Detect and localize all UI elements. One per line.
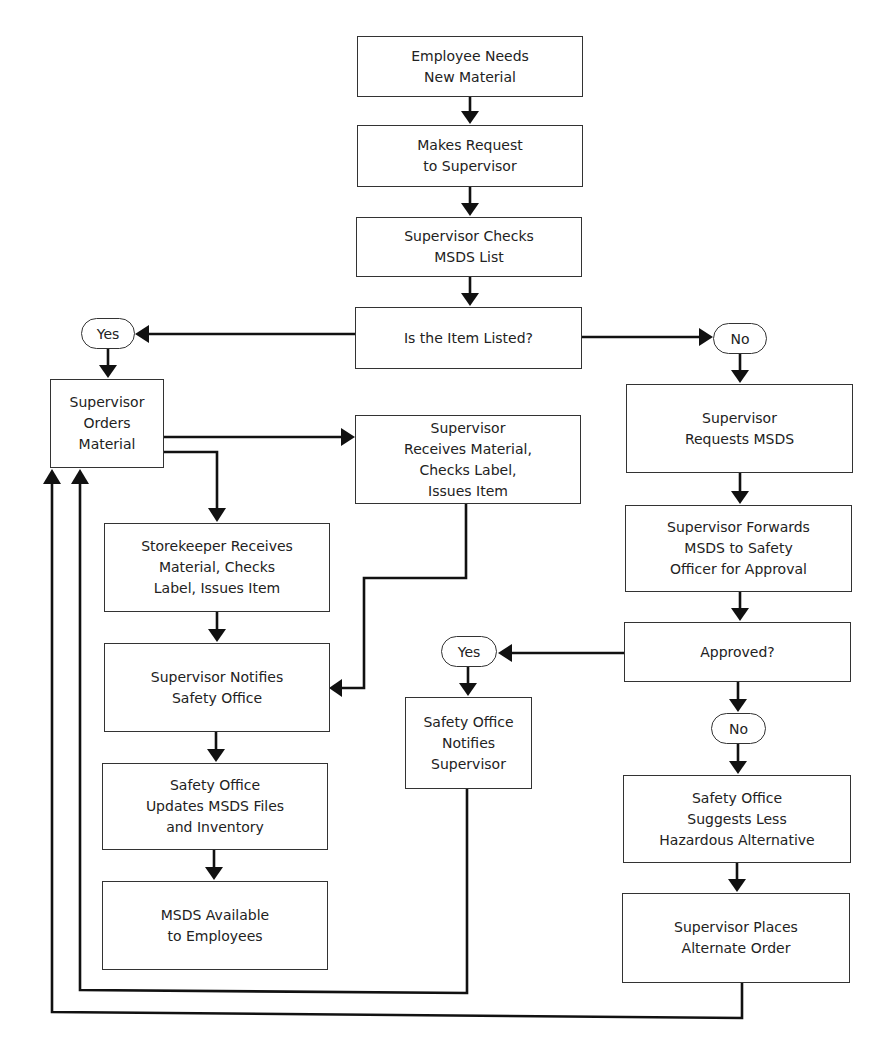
label-yes-approved: Yes [441, 636, 497, 667]
node-supervisor-forwards-msds: Supervisor Forwards MSDS to Safety Offic… [625, 505, 852, 592]
label-no-approved: No [711, 713, 766, 744]
msds-flowchart: Employee Needs New Material Makes Reques… [0, 0, 894, 1050]
node-safety-office-notifies-supervisor: Safety Office Notifies Supervisor [405, 697, 532, 789]
decision-item-listed: Is the Item Listed? [355, 307, 582, 369]
node-supervisor-places-alternate-order: Supervisor Places Alternate Order [622, 893, 850, 983]
node-makes-request: Makes Request to Supervisor [357, 125, 583, 187]
node-supervisor-receives-material: Supervisor Receives Material, Checks Lab… [355, 415, 581, 504]
node-supervisor-checks-list: Supervisor Checks MSDS List [356, 217, 582, 277]
node-storekeeper-receives: Storekeeper Receives Material, Checks La… [104, 523, 330, 612]
node-msds-available: MSDS Available to Employees [102, 881, 328, 970]
node-supervisor-requests-msds: Supervisor Requests MSDS [626, 384, 853, 473]
node-safety-updates-files: Safety Office Updates MSDS Files and Inv… [102, 763, 328, 850]
node-employee-needs-material: Employee Needs New Material [357, 36, 583, 97]
label-no-listed: No [713, 323, 767, 354]
node-supervisor-orders-material: Supervisor Orders Material [50, 379, 164, 468]
decision-approved: Approved? [624, 622, 851, 682]
node-safety-suggests-alternative: Safety Office Suggests Less Hazardous Al… [623, 775, 851, 863]
label-yes-listed: Yes [81, 318, 135, 349]
node-supervisor-notifies-safety: Supervisor Notifies Safety Office [104, 643, 330, 732]
